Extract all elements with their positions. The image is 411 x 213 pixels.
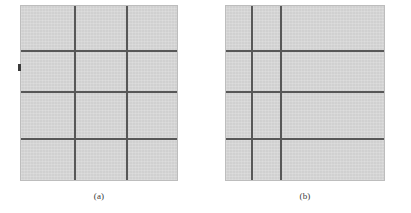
- panel-a-horizontal-line-3: [21, 138, 177, 140]
- panel-b-horizontal-line-1: [226, 50, 384, 52]
- panel-b-vertical-line-2: [280, 6, 282, 180]
- panel-a-horizontal-line-1: [21, 50, 177, 52]
- panel-b-horizontal-line-3: [226, 138, 384, 140]
- panel-a-horizontal-line-2: [21, 91, 177, 93]
- panel-a: [20, 5, 178, 181]
- figure-root: (a) (b): [0, 0, 411, 213]
- panel-b: [225, 5, 385, 181]
- panel-b-horizontal-line-2: [226, 91, 384, 93]
- panel-a-vertical-line-2: [126, 6, 128, 180]
- panel-a-left-edge-tick: [18, 64, 21, 71]
- panel-b-vertical-line-1: [251, 6, 253, 180]
- panel-a-vertical-line-1: [74, 6, 76, 180]
- caption-panel-a: (a): [89, 191, 109, 201]
- caption-panel-b: (b): [295, 191, 315, 201]
